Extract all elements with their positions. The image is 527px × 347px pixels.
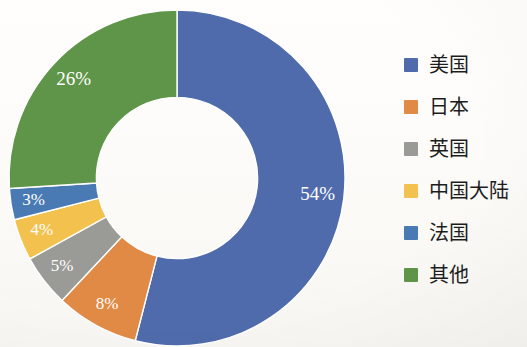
slice-value-label-other: 26% — [56, 68, 91, 89]
legend-swatch-uk — [404, 142, 418, 156]
donut-chart: 54%8%5%4%3%26% — [0, 0, 370, 347]
legend-swatch-us — [404, 58, 418, 72]
legend-label-other: 其他 — [429, 265, 469, 285]
slice-value-label-uk: 5% — [51, 256, 74, 275]
legend-item-china[interactable]: 中国大陆 — [404, 170, 527, 212]
donut-slices — [9, 10, 345, 346]
legend-label-france: 法国 — [429, 223, 469, 243]
chart-legend: 美国 日本 英国 中国大陆 法国 其他 — [404, 44, 527, 306]
legend-item-uk[interactable]: 英国 — [404, 128, 527, 170]
donut-chart-svg: 54%8%5%4%3%26% — [0, 0, 370, 347]
slice-value-label-china: 4% — [31, 220, 54, 239]
legend-item-japan[interactable]: 日本 — [404, 86, 527, 128]
legend-swatch-japan — [404, 100, 418, 114]
legend-label-uk: 英国 — [429, 139, 469, 159]
legend-swatch-other — [404, 268, 418, 282]
donut-slice-other[interactable] — [9, 10, 177, 189]
legend-item-france[interactable]: 法国 — [404, 212, 527, 254]
slice-value-label-us: 54% — [300, 183, 335, 204]
legend-swatch-france — [404, 226, 418, 240]
slice-value-label-japan: 8% — [96, 294, 119, 313]
chart-figure: 54%8%5%4%3%26% 美国 日本 英国 中国大陆 法国 其他 — [0, 0, 527, 347]
legend-label-china: 中国大陆 — [429, 181, 509, 201]
legend-item-us[interactable]: 美国 — [404, 44, 527, 86]
legend-label-us: 美国 — [429, 55, 469, 75]
legend-label-japan: 日本 — [429, 97, 469, 117]
legend-item-other[interactable]: 其他 — [404, 254, 527, 296]
slice-value-label-france: 3% — [22, 190, 45, 209]
legend-swatch-china — [404, 184, 418, 198]
